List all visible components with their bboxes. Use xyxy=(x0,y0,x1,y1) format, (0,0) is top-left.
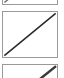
diagonal-line-icon xyxy=(3,0,57,4)
medium-diagonal-swatch[interactable] xyxy=(2,11,58,58)
thick-diagonal-swatch[interactable] xyxy=(2,64,58,78)
diagonal-line-style-palette xyxy=(0,0,64,78)
diagonal-line-icon xyxy=(3,12,57,57)
diagonal-line-icon xyxy=(3,65,57,78)
thin-diagonal-swatch[interactable] xyxy=(2,0,58,5)
